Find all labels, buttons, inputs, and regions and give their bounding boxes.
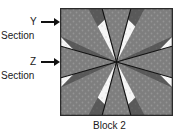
z-right-arrow-icon xyxy=(41,61,55,63)
block-caption: Block 2 xyxy=(93,120,126,131)
quilt-block-figure: Y Section Z Section xyxy=(0,0,173,136)
y-section-letter-label: Y xyxy=(30,16,37,27)
eight-pointed-star-quilt-block xyxy=(60,8,173,116)
y-section-word-label: Section xyxy=(1,30,34,41)
z-section-letter-label: Z xyxy=(30,56,36,67)
y-right-arrow-icon xyxy=(41,21,55,23)
z-section-word-label: Section xyxy=(1,70,34,81)
